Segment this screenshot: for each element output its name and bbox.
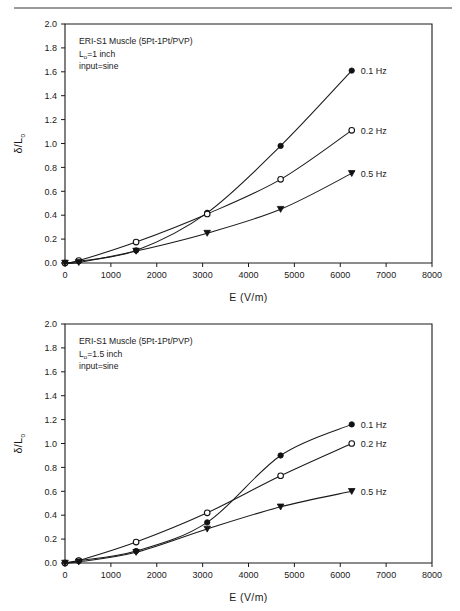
series-label-0-5-hz: 0.5 Hz bbox=[361, 487, 388, 497]
x-axis-tick-label: 5000 bbox=[284, 270, 304, 280]
x-axis-title: E (V/m) bbox=[229, 291, 267, 303]
y-axis-title: δ/Lo bbox=[12, 434, 26, 454]
series-label-0-2-hz: 0.2 Hz bbox=[361, 439, 388, 449]
y-axis-tick-label: 0.4 bbox=[44, 210, 57, 220]
y-axis-tick-label: 0.8 bbox=[44, 463, 57, 473]
marker-open-circle bbox=[133, 239, 139, 245]
y-axis-tick-label: 1.8 bbox=[44, 343, 57, 353]
y-axis-tick-label: 0.6 bbox=[44, 187, 57, 197]
chart-annotation-line: Lo=1.5 inch bbox=[79, 349, 123, 360]
x-axis-tick-label: 7000 bbox=[376, 270, 396, 280]
chart-annotation-line: ERI-S1 Muscle (5Pt-1Pt/PVP) bbox=[79, 36, 193, 46]
chart-panel-top: 0.00.20.40.60.81.01.21.41.61.82.00100020… bbox=[0, 14, 460, 314]
series-0-2-hz: 0.2 Hz bbox=[62, 439, 387, 566]
series-label-0-1-hz: 0.1 Hz bbox=[361, 66, 388, 76]
marker-filled-circle bbox=[349, 68, 354, 73]
y-axis-title-text: δ/Lo bbox=[12, 134, 26, 154]
x-axis-tick-label: 8000 bbox=[422, 570, 442, 580]
series-0-1-hz: 0.1 Hz bbox=[62, 66, 387, 266]
marker-open-circle bbox=[133, 539, 139, 545]
y-axis-tick-label: 0.8 bbox=[44, 163, 57, 173]
marker-open-circle bbox=[278, 473, 284, 479]
y-axis-tick-label: 2.0 bbox=[44, 19, 57, 29]
marker-filled-circle bbox=[205, 520, 210, 525]
x-axis-tick-label: 5000 bbox=[284, 570, 304, 580]
x-axis-tick-label: 3000 bbox=[193, 270, 213, 280]
chart-annotation-line: Lo=1 inch bbox=[79, 49, 115, 60]
x-axis-tick-label: 2000 bbox=[147, 570, 167, 580]
marker-filled-triangle bbox=[277, 206, 284, 212]
x-axis-tick-label: 0 bbox=[62, 270, 67, 280]
x-axis-tick-label: 6000 bbox=[330, 570, 350, 580]
y-axis-tick-label: 1.2 bbox=[44, 115, 57, 125]
chart-panel-bottom: 0.00.20.40.60.81.01.21.41.61.82.00100020… bbox=[0, 314, 460, 611]
series-0-5-hz: 0.5 Hz bbox=[62, 487, 388, 567]
y-axis-tick-label: 1.6 bbox=[44, 367, 57, 377]
figure-page: 0.00.20.40.60.81.01.21.41.61.82.00100020… bbox=[0, 0, 460, 611]
x-axis-tick-label: 3000 bbox=[193, 570, 213, 580]
series-label-0-1-hz: 0.1 Hz bbox=[361, 420, 388, 430]
x-axis-title: E (V/m) bbox=[229, 591, 267, 603]
series-label-0-5-hz: 0.5 Hz bbox=[361, 169, 388, 179]
marker-open-circle bbox=[349, 441, 355, 447]
y-axis-title-text: δ/Lo bbox=[12, 434, 26, 454]
y-axis-title: δ/Lo bbox=[12, 134, 26, 154]
x-axis-tick-label: 4000 bbox=[238, 270, 258, 280]
marker-open-circle bbox=[204, 211, 210, 217]
series-line bbox=[65, 173, 352, 263]
y-axis-tick-label: 0.0 bbox=[44, 258, 57, 268]
series-0-2-hz: 0.2 Hz bbox=[62, 126, 387, 266]
y-axis-tick-label: 0.2 bbox=[44, 534, 57, 544]
y-axis-tick-label: 2.0 bbox=[44, 319, 57, 329]
series-0-5-hz: 0.5 Hz bbox=[62, 169, 388, 267]
marker-open-circle bbox=[349, 128, 355, 134]
x-axis-tick-label: 7000 bbox=[376, 570, 396, 580]
x-axis-tick-label: 1000 bbox=[101, 570, 121, 580]
x-axis-tick-label: 1000 bbox=[101, 270, 121, 280]
series-line bbox=[65, 444, 352, 564]
y-axis-tick-label: 1.8 bbox=[44, 43, 57, 53]
marker-filled-triangle bbox=[204, 526, 211, 532]
page-header-rule bbox=[14, 7, 452, 9]
chart-annotation-line: input=sine bbox=[79, 61, 119, 71]
chart-annotation-line: ERI-S1 Muscle (5Pt-1Pt/PVP) bbox=[79, 336, 193, 346]
y-axis-tick-label: 1.2 bbox=[44, 415, 57, 425]
series-label-0-2-hz: 0.2 Hz bbox=[361, 126, 388, 136]
marker-filled-circle bbox=[349, 422, 354, 427]
marker-open-circle bbox=[278, 177, 284, 183]
marker-filled-circle bbox=[278, 143, 283, 148]
y-axis-tick-label: 0.2 bbox=[44, 234, 57, 244]
chart-top: 0.00.20.40.60.81.01.21.41.61.82.00100020… bbox=[0, 14, 460, 314]
marker-filled-triangle bbox=[348, 171, 355, 177]
series-line bbox=[65, 424, 352, 563]
series-0-1-hz: 0.1 Hz bbox=[62, 420, 387, 566]
x-axis-tick-label: 0 bbox=[62, 570, 67, 580]
chart-annotation-line: input=sine bbox=[79, 361, 119, 371]
y-axis-tick-label: 0.0 bbox=[44, 558, 57, 568]
y-axis-tick-label: 1.0 bbox=[44, 439, 57, 449]
marker-filled-circle bbox=[278, 453, 283, 458]
x-axis-tick-label: 4000 bbox=[238, 570, 258, 580]
y-axis-tick-label: 0.6 bbox=[44, 487, 57, 497]
y-axis-tick-label: 1.0 bbox=[44, 139, 57, 149]
y-axis-tick-label: 1.4 bbox=[44, 391, 57, 401]
x-axis-tick-label: 2000 bbox=[147, 270, 167, 280]
y-axis-tick-label: 0.4 bbox=[44, 510, 57, 520]
plot-frame bbox=[65, 24, 432, 263]
series-line bbox=[65, 130, 352, 263]
y-axis-tick-label: 1.6 bbox=[44, 67, 57, 77]
marker-open-circle bbox=[204, 510, 210, 516]
x-axis-tick-label: 6000 bbox=[330, 270, 350, 280]
x-axis-tick-label: 8000 bbox=[422, 270, 442, 280]
chart-bottom: 0.00.20.40.60.81.01.21.41.61.82.00100020… bbox=[0, 314, 460, 611]
y-axis-tick-label: 1.4 bbox=[44, 91, 57, 101]
